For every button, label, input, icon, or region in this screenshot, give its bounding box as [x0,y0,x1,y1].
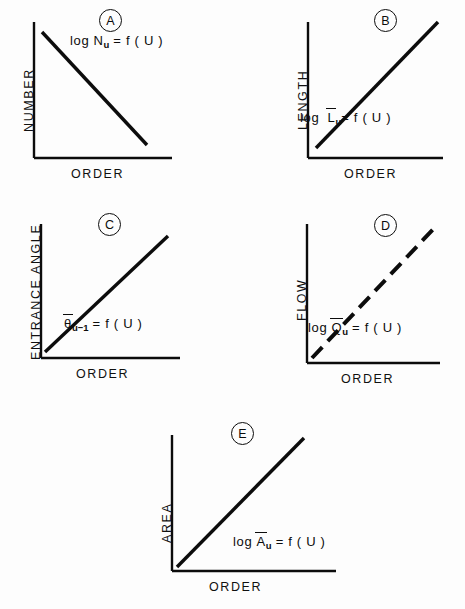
panel-a-eq-prefix: log [70,33,89,48]
panel-d-xlabel: ORDER [341,372,394,386]
panel-e-eq-subscript: u [266,540,272,551]
panel-letter-b: B [374,9,397,32]
panel-b-eq-suffix: = f ( U ) [341,110,391,125]
panel-c-eq-symbol: θ [64,316,72,331]
panel-c-equation: θu−1= f ( U ) [64,316,143,333]
panel-d-eq-symbol: Q [331,320,342,335]
panel-a-eq-suffix: = f ( U ) [113,33,163,48]
panel-c-ylabel: ENTRANCE ANGLE [29,224,43,360]
panel-a-equation: logNu= f ( U ) [70,33,163,50]
panel-d-eq-suffix: = f ( U ) [352,320,402,335]
panel-c-trend-line [45,236,168,352]
panel-b-plot [240,0,455,175]
panel-letter-c: C [98,213,121,236]
panel-c-xlabel: ORDER [76,367,129,381]
panel-b-trend-line [316,22,438,148]
panel-b-equation: logLu= f ( U ) [300,110,391,127]
panel-letter-a: A [99,9,122,32]
panel-e-eq-suffix: = f ( U ) [276,534,326,549]
panel-d-trend-line [312,224,438,358]
panel-d-plot [240,200,455,375]
panel-e-xlabel: ORDER [209,580,262,594]
panel-b-ylabel: LENGTH [296,70,310,130]
panel-b: B logLu= f ( U ) LENGTH ORDER [240,0,455,175]
panel-d-ylabel: FLOW [295,278,309,321]
panel-a: A logNu= f ( U ) NUMBER ORDER [0,0,200,175]
panel-d: D logQu= f ( U ) FLOW ORDER [240,200,455,375]
panel-d-eq-prefix: log [308,320,327,335]
panel-e-eq-prefix: log [233,534,252,549]
panel-a-ylabel: NUMBER [22,68,36,132]
panel-c: C θu−1= f ( U ) ENTRANCE ANGLE ORDER [0,200,215,375]
panel-letter-e: E [231,422,254,445]
figure-canvas: A logNu= f ( U ) NUMBER ORDER B logLu= f… [0,0,465,609]
panel-c-eq-suffix: = f ( U ) [93,316,143,331]
panel-a-xlabel: ORDER [71,167,124,181]
panel-b-eq-symbol: L [327,110,335,125]
panel-d-eq-subscript: u [342,326,348,337]
panel-e-equation: logAu= f ( U ) [233,534,326,551]
panel-e-eq-symbol: A [256,534,265,549]
panel-c-eq-subscript: u−1 [72,322,89,333]
panel-b-xlabel: ORDER [344,167,397,181]
panel-a-eq-subscript: u [104,39,110,50]
panel-letter-d: D [374,214,397,237]
panel-e-ylabel: AREA [160,503,174,543]
panel-a-eq-symbol: N [93,33,103,48]
panel-e: E logAu= f ( U ) AREA ORDER [140,400,360,580]
panel-d-equation: logQu= f ( U ) [308,320,402,337]
